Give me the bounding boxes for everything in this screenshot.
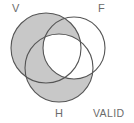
figure-caption-valid: VALID [93, 107, 125, 119]
circle-label-h: H [55, 107, 63, 119]
venn-diagram-figure: V F H VALID [0, 0, 134, 123]
circle-label-v: V [12, 2, 20, 14]
venn-diagram-svg: V F H VALID [0, 0, 134, 123]
shaded-regions-group [0, 0, 134, 123]
circle-label-f: F [98, 2, 105, 14]
shaded-region-fill [0, 0, 134, 123]
